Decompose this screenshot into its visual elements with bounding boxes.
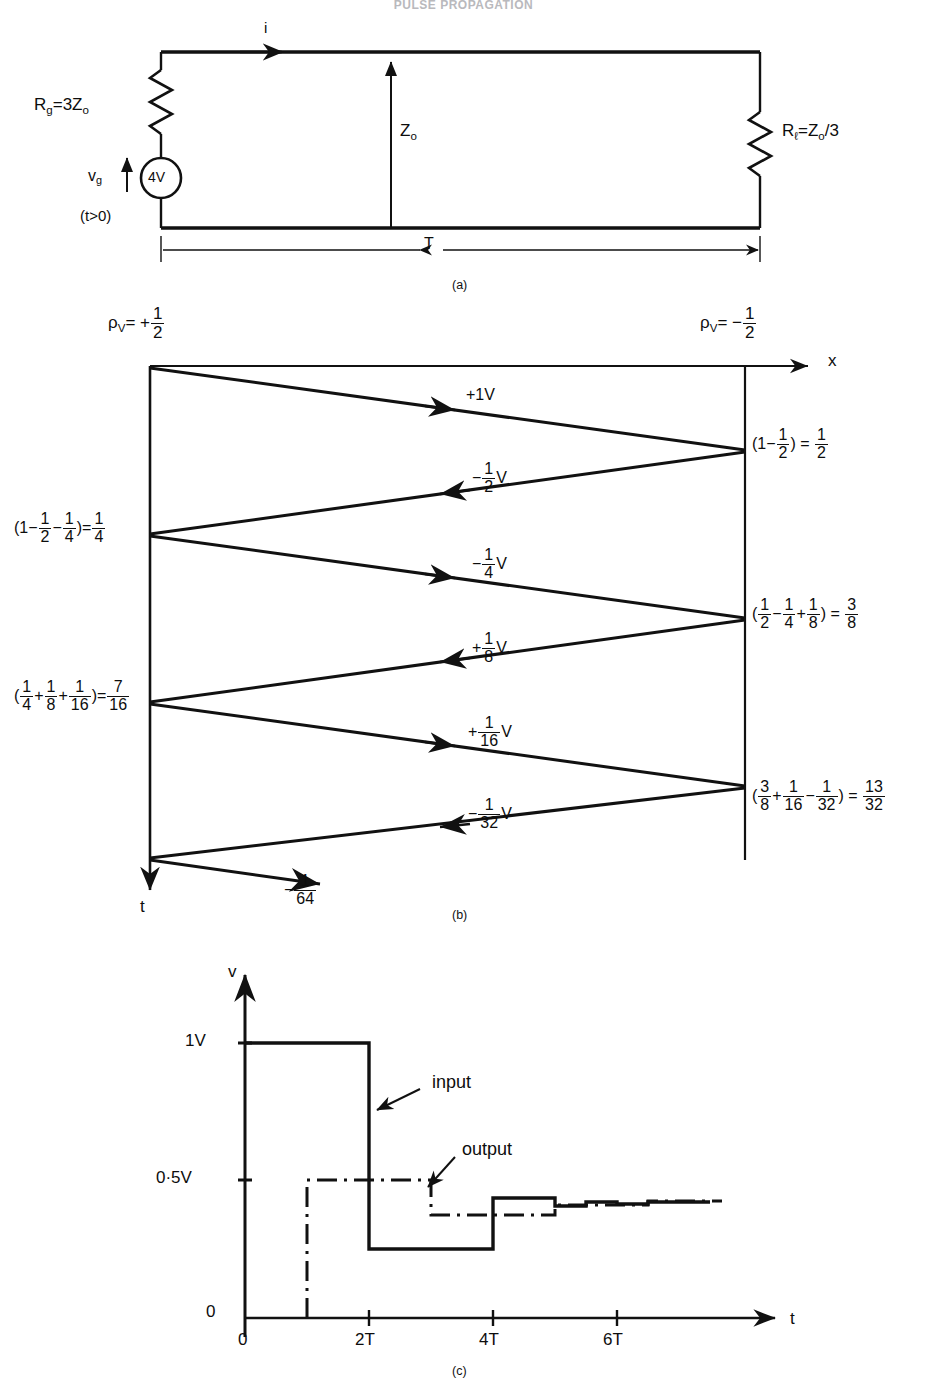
wave-4-sign: +	[472, 639, 481, 656]
nl1-p2-den: 4	[63, 528, 76, 545]
wave-2-den: 2	[482, 478, 495, 495]
wave-6-sign: −	[468, 805, 477, 822]
zo-symbol: Z	[400, 121, 410, 140]
t-axis-label: t	[140, 898, 145, 915]
wave-label-1: +1V	[466, 387, 495, 403]
current-label: i	[264, 20, 267, 35]
vg-subscript: g	[96, 174, 102, 186]
panel-b-caption: (b)	[452, 908, 467, 922]
rho-left-equals: = +	[125, 313, 150, 332]
ytick-label-1v: 1V	[185, 1032, 206, 1049]
circuit-svg	[0, 0, 927, 300]
t-axis-label-c: t	[790, 1310, 795, 1327]
output-annotation: output	[462, 1140, 512, 1158]
nr2-p2-sign: +	[796, 605, 805, 622]
load-resistor-zigzag	[749, 112, 771, 176]
line-impedance-label: Zo	[400, 122, 417, 142]
nl2-p0-den: 4	[20, 696, 33, 713]
wave-label-7: −164	[284, 874, 317, 908]
nr3-p0-sign: (	[752, 787, 757, 804]
wave-5-sign: +	[468, 723, 477, 740]
nl2-p0-num: 1	[20, 679, 33, 695]
nl2-p0-sign: (	[14, 687, 19, 704]
wave-4-num: 1	[482, 631, 495, 647]
wave-label-2: −12V	[472, 462, 507, 496]
output-annotation-leader	[428, 1157, 455, 1187]
wave-label-6: −132V	[468, 798, 512, 832]
rho-left-symbol: ρ	[108, 313, 118, 332]
nl2-res-num: 7	[112, 679, 125, 695]
nr3-res-num: 13	[863, 779, 885, 795]
xtick-label-4t: 4T	[479, 1331, 499, 1348]
rho-right-label: ρV= −12	[700, 306, 757, 342]
wave-3-den: 4	[482, 564, 495, 581]
x-axis-label: x	[828, 352, 837, 369]
node-total-right-2: (12−14+18) = 38	[752, 598, 859, 632]
nr2-p1-den: 4	[783, 614, 796, 631]
nr2-p2-num: 1	[807, 597, 820, 613]
nl1-res-den: 4	[92, 528, 105, 545]
zo-subscript: o	[410, 130, 416, 142]
nr2-p0-num: 1	[758, 597, 771, 613]
vg-label: vg	[88, 168, 102, 186]
nl2-p2-sign: +	[58, 687, 67, 704]
nl2-res-den: 16	[107, 696, 129, 713]
panel-c-caption: (c)	[452, 1364, 467, 1378]
wave-6-unit: V	[501, 805, 512, 822]
rho-left-num: 1	[151, 305, 164, 322]
source-resistance-label: Rg=3Zo	[34, 96, 89, 116]
rg-equals: =3Z	[53, 95, 83, 114]
wave-4-unit: V	[496, 639, 507, 656]
node-total-left-1: (1−12−14)=14	[14, 512, 106, 546]
wave-1-whole: 1	[475, 386, 484, 403]
wave-6-den: 32	[478, 814, 500, 831]
wave-6-num: 1	[483, 797, 496, 813]
wave-7-sign: −	[284, 881, 293, 898]
nl2-p1-sign: +	[34, 687, 43, 704]
rl-equals: =Z	[798, 121, 818, 140]
nr3-p1-num: 1	[787, 779, 800, 795]
nl1-p2-sign: −	[52, 519, 61, 536]
wave-7-den: 64	[294, 890, 316, 907]
wave-label-5: +116V	[468, 716, 512, 750]
nr1-p1-num: 1	[777, 427, 790, 443]
wave-1-sign: +	[466, 386, 475, 403]
nr1-res-den: 2	[815, 444, 828, 461]
nl1-p1-num: 1	[39, 511, 52, 527]
nr3-p1-sign: +	[772, 787, 781, 804]
nr2-p2-den: 8	[807, 614, 820, 631]
source-value-label: 4V	[148, 170, 165, 184]
rho-right-num: 1	[743, 305, 756, 322]
wave-5-num: 1	[483, 715, 496, 731]
nr2-p0-sign: (	[752, 605, 757, 622]
wave-2-unit: V	[496, 469, 507, 486]
nr3-p2-sign: −	[805, 787, 814, 804]
waveform-svg	[0, 965, 927, 1385]
wave-1-unit: V	[484, 386, 495, 403]
node-total-right-3: (38+116−132) = 1332	[752, 780, 886, 814]
xtick-label-0: 0	[238, 1331, 247, 1348]
ray-6	[150, 788, 745, 858]
wave-3-num: 1	[482, 547, 495, 563]
nl1-res-num: 1	[92, 511, 105, 527]
rho-right-equals: = −	[717, 313, 742, 332]
nr2-p0-den: 2	[758, 614, 771, 631]
nl1-p1-sign: −	[28, 519, 37, 536]
nr3-p2-den: 32	[816, 796, 838, 813]
nl2-p2-den: 16	[69, 696, 91, 713]
source-condition-label: (t>0)	[80, 208, 111, 223]
nl2-p1-num: 1	[45, 679, 58, 695]
nr2-p1-num: 1	[783, 597, 796, 613]
wave-7-num: 1	[299, 873, 312, 889]
panel-a-caption: (a)	[452, 278, 467, 292]
xtick-label-6t: 6T	[603, 1331, 623, 1348]
nl1-p0: (1	[14, 519, 28, 536]
load-resistance-label: Rℓ=Zo/3	[782, 122, 839, 142]
ytick-label-05v: 0·5V	[156, 1169, 192, 1186]
wave-label-3: −14V	[472, 548, 507, 582]
wave-5-unit: V	[501, 723, 512, 740]
wave-5-den: 16	[478, 732, 500, 749]
nr3-p1-den: 16	[783, 796, 805, 813]
wave-4-den: 8	[482, 648, 495, 665]
nr1-p1-sign: −	[766, 435, 775, 452]
